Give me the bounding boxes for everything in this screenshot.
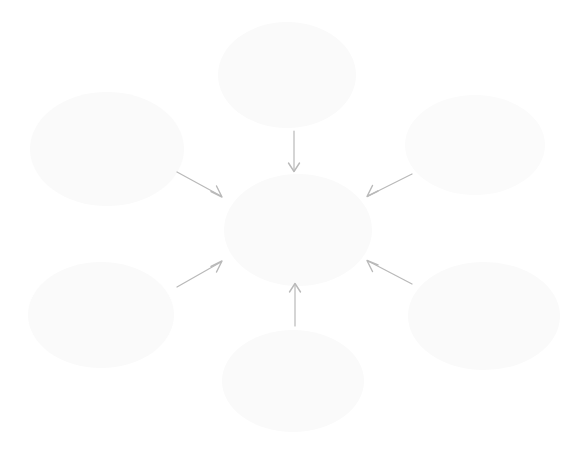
node-bottom-right[interactable] [408,262,560,370]
node-top-left[interactable] [30,92,184,206]
node-top-ellipse[interactable] [218,22,356,128]
node-bottom-left[interactable] [28,262,174,368]
node-top-right-ellipse[interactable] [405,95,545,195]
node-center[interactable] [224,174,372,286]
arrow-bottom-right-to-center-line [368,261,412,284]
arrow-bottom-left-to-center [177,261,222,287]
node-top-left-ellipse[interactable] [30,92,184,206]
nodes-layer [28,22,560,432]
arrow-top-right-to-center-head [367,186,378,197]
node-bottom-ellipse[interactable] [222,330,364,432]
arrow-bottom-left-to-center-line [177,262,221,287]
diagram-canvas [0,0,574,450]
node-bottom-left-ellipse[interactable] [28,262,174,368]
node-top-right[interactable] [405,95,545,195]
node-bottom-right-ellipse[interactable] [408,262,560,370]
arrow-top-left-to-center-line [177,172,221,196]
node-top[interactable] [218,22,356,128]
node-bottom[interactable] [222,330,364,432]
arrow-bottom-to-center [290,284,301,327]
node-center-ellipse[interactable] [224,174,372,286]
arrow-top-left-to-center [177,172,222,197]
radial-convergence-diagram [0,0,574,450]
arrow-top-right-to-center [367,174,412,197]
arrow-top-to-center [289,131,300,172]
arrow-bottom-right-to-center [367,261,412,285]
